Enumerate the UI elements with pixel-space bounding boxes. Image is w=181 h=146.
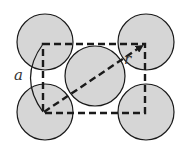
atom-center <box>65 46 125 106</box>
label-side-a: a <box>14 66 23 84</box>
atom-top-left <box>17 14 73 70</box>
label-radius-r: r <box>124 50 132 68</box>
unit-cell-diagram: a r <box>0 0 181 146</box>
